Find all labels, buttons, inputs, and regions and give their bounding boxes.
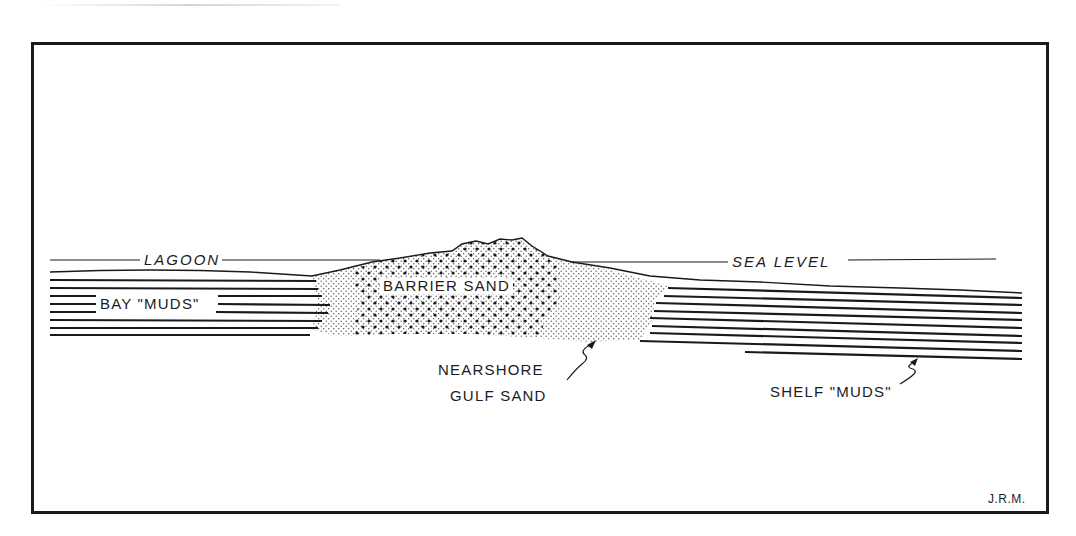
bay-muds-label: BAY "MUDS" xyxy=(98,296,202,312)
arrowhead-icon xyxy=(910,358,918,366)
barrier-sand-label: BARRIER SAND xyxy=(380,278,513,294)
nearshore-label-line2: GULF SAND xyxy=(450,388,547,404)
diagram-canvas: LAGOON SEA LEVEL BAY "MUDS" BARRIER SAND… xyxy=(0,0,1076,536)
leader-arrows xyxy=(567,344,915,384)
lagoon-label: LAGOON xyxy=(142,252,222,268)
nearshore-label-line1: NEARSHORE xyxy=(438,362,544,378)
shelf-muds-label: SHELF "MUDS" xyxy=(770,384,892,400)
shelf-muds-strata xyxy=(640,288,1022,359)
sea-level-label: SEA LEVEL xyxy=(730,254,832,270)
cross-section-drawing xyxy=(0,0,1076,536)
author-signature: J.R.M. xyxy=(988,492,1026,506)
